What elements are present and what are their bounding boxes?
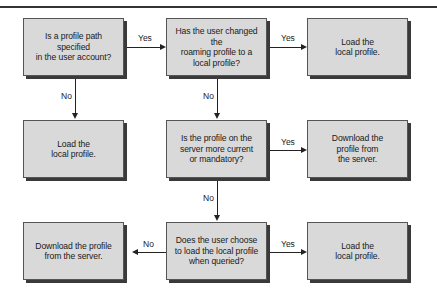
- node-text: Download the profile from the server.: [332, 133, 383, 165]
- node-text: Has the user changed the roaming profile…: [171, 26, 262, 68]
- node-download-from-server-2: Download the profile from the server.: [23, 222, 124, 280]
- edge-label-yes: Yes: [281, 239, 295, 249]
- arrow-down-icon: [214, 113, 220, 119]
- node-server-more-current: Is the profile on the server more curren…: [166, 120, 267, 178]
- node-text: Is the profile on the server more curren…: [180, 133, 253, 165]
- edge-label-no: No: [143, 239, 154, 249]
- node-text: Is a profile path specified in the user …: [28, 31, 119, 63]
- node-text: Load the local profile.: [51, 139, 95, 160]
- top-rule: [0, 6, 437, 8]
- node-changed-to-local: Has the user changed the roaming profile…: [166, 18, 267, 76]
- edge-q1-q2: [127, 47, 160, 48]
- edge-q3-a3: [270, 150, 301, 151]
- arrow-right-icon: [160, 44, 166, 50]
- arrow-right-icon: [301, 147, 307, 153]
- edge-label-yes: Yes: [138, 33, 152, 43]
- edge-label-yes: Yes: [281, 137, 295, 147]
- node-text: Load the local profile.: [335, 37, 379, 58]
- node-text: Load the local profile.: [335, 241, 379, 262]
- node-user-choose-local: Does the user choose to load the local p…: [166, 222, 267, 280]
- edge-q2-a1: [270, 47, 301, 48]
- node-text: Download the profile from the server.: [35, 241, 111, 262]
- edge-q1-a2: [75, 79, 76, 114]
- node-text: Does the user choose to load the local p…: [175, 235, 259, 267]
- edge-q3-q4: [217, 181, 218, 216]
- edge-label-no: No: [203, 91, 214, 101]
- arrow-down-icon: [72, 113, 78, 119]
- edge-q2-q3: [217, 79, 218, 114]
- arrow-right-icon: [301, 249, 307, 255]
- node-load-local-2: Load the local profile.: [23, 120, 124, 178]
- arrow-left-icon: [132, 249, 138, 255]
- arrow-down-icon: [214, 215, 220, 221]
- node-load-local-1: Load the local profile.: [307, 18, 408, 76]
- edge-q4-a4: [138, 252, 166, 253]
- edge-q4-a5: [270, 252, 301, 253]
- arrow-right-icon: [301, 44, 307, 50]
- edge-label-yes: Yes: [281, 33, 295, 43]
- node-profile-path-specified: Is a profile path specified in the user …: [23, 18, 124, 76]
- edge-label-no: No: [61, 91, 72, 101]
- node-load-local-3: Load the local profile.: [307, 222, 408, 280]
- node-download-from-server-1: Download the profile from the server.: [307, 120, 408, 178]
- edge-label-no: No: [203, 193, 214, 203]
